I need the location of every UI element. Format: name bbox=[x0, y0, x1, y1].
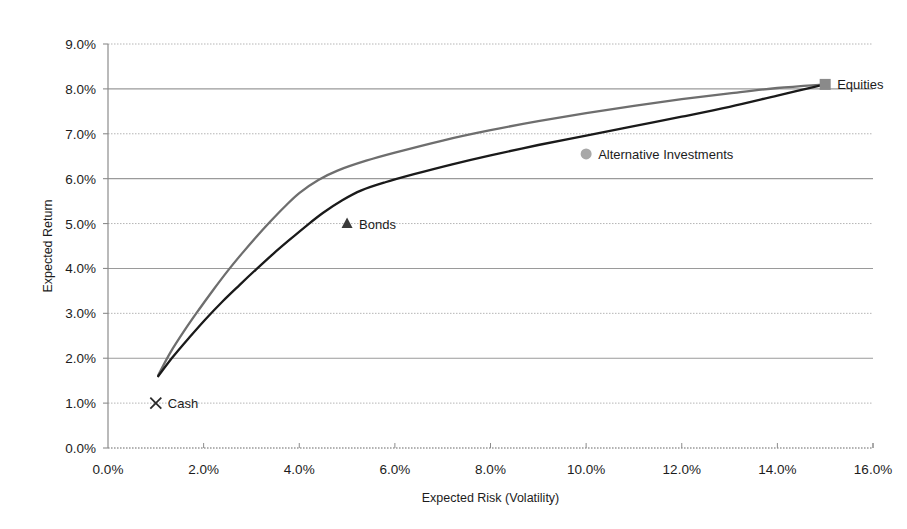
asset-class-label: Alternative Investments bbox=[598, 147, 734, 162]
square-marker bbox=[820, 79, 831, 90]
x-tick-label: 0.0% bbox=[93, 462, 124, 477]
x-tick-label: 6.0% bbox=[379, 462, 410, 477]
x-axis-tick-labels: 0.0%2.0%4.0%6.0%8.0%10.0%12.0%14.0%16.0% bbox=[93, 462, 893, 477]
y-tick-label: 3.0% bbox=[65, 306, 96, 321]
x-tick-label: 14.0% bbox=[758, 462, 796, 477]
y-tick-label: 1.0% bbox=[65, 396, 96, 411]
y-tick-label: 8.0% bbox=[65, 82, 96, 97]
asset-class-label: Cash bbox=[168, 396, 198, 411]
asset-class-label: Equities bbox=[837, 77, 884, 92]
y-tick-label: 6.0% bbox=[65, 172, 96, 187]
y-tick-label: 4.0% bbox=[65, 261, 96, 276]
chart-canvas: CashBondsAlternative InvestmentsEquities… bbox=[0, 0, 907, 529]
x-tick-label: 10.0% bbox=[567, 462, 605, 477]
x-axis-title: Expected Risk (Volatility) bbox=[422, 491, 560, 505]
y-tick-label: 9.0% bbox=[65, 37, 96, 52]
chart-background bbox=[0, 0, 907, 529]
x-tick-label: 2.0% bbox=[188, 462, 219, 477]
y-tick-label: 7.0% bbox=[65, 127, 96, 142]
y-tick-label: 0.0% bbox=[65, 441, 96, 456]
y-tick-label: 2.0% bbox=[65, 351, 96, 366]
efficient-frontier-chart: CashBondsAlternative InvestmentsEquities… bbox=[0, 0, 907, 529]
x-tick-label: 4.0% bbox=[284, 462, 315, 477]
asset-class-label: Bonds bbox=[359, 217, 396, 232]
x-tick-label: 12.0% bbox=[663, 462, 701, 477]
x-tick-label: 16.0% bbox=[854, 462, 892, 477]
circle-marker bbox=[581, 148, 592, 159]
x-tick-label: 8.0% bbox=[475, 462, 506, 477]
y-axis-title: Expected Return bbox=[41, 199, 55, 292]
y-tick-label: 5.0% bbox=[65, 217, 96, 232]
